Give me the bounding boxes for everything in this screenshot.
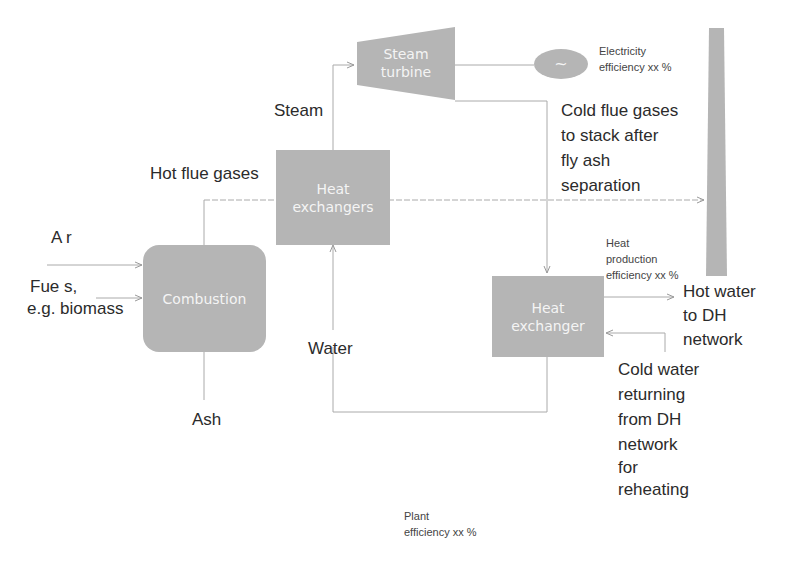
- fuels-label-2: e.g. biomass: [27, 298, 123, 320]
- generator-icon: ~: [534, 52, 588, 76]
- cold-water-line-5: for: [618, 457, 699, 479]
- heat-exchangers-label-1: Heat: [293, 180, 374, 198]
- hot-flue-gases-label: Hot flue gases: [150, 163, 259, 185]
- water-label: Water: [308, 338, 353, 360]
- combustion-label: Combustion: [163, 290, 247, 308]
- steam-turbine: Steam turbine: [357, 38, 455, 88]
- generator-symbol: ~: [554, 55, 567, 73]
- cold-flue-line-2: to stack after: [561, 123, 678, 148]
- cold-flue-gases-label: Cold flue gases to stack after fly ash s…: [561, 98, 678, 198]
- combustion-box: Combustion: [143, 245, 266, 352]
- fuels-label-1: Fue s,: [30, 276, 77, 298]
- heat-efficiency-line-2: production: [606, 251, 679, 267]
- hot-water-line-2: to DH: [683, 304, 756, 328]
- cold-water-line-1: Cold water: [618, 357, 699, 382]
- cold-flue-line-3: fly ash: [561, 148, 678, 173]
- plant-efficiency: Plant efficiency xx %: [404, 508, 477, 540]
- heat-exchanger-box: Heat exchanger: [492, 276, 604, 357]
- heat-exchangers-label-2: exchangers: [293, 198, 374, 216]
- hot-water-line-3: network: [683, 328, 756, 352]
- stack-shape: [706, 28, 727, 276]
- electricity-efficiency-line-1: Electricity: [599, 43, 672, 59]
- cold-flue-line-4: separation: [561, 173, 678, 198]
- hot-water-line-1: Hot water: [683, 280, 756, 304]
- cold-water-line-4: network: [618, 432, 699, 457]
- heat-production-efficiency: Heat production efficiency xx %: [606, 235, 679, 283]
- steam-turbine-label-1: Steam: [381, 45, 431, 63]
- ash-label: Ash: [192, 409, 221, 431]
- hot-water-label: Hot water to DH network: [683, 280, 756, 352]
- cold-water-line-6: reheating: [618, 479, 699, 501]
- heat-exchanger-label-2: exchanger: [511, 317, 585, 335]
- plant-efficiency-line-2: efficiency xx %: [404, 524, 477, 540]
- cold-water-line-3: from DH: [618, 407, 699, 432]
- electricity-efficiency-line-2: efficiency xx %: [599, 59, 672, 75]
- air-label: A r: [51, 227, 72, 249]
- cold-water-label: Cold water returning from DH network for…: [618, 357, 699, 501]
- steam-turbine-label-2: turbine: [381, 63, 431, 81]
- cold-flue-line-1: Cold flue gases: [561, 98, 678, 123]
- heat-exchanger-label-1: Heat: [511, 299, 585, 317]
- steam-label: Steam: [274, 100, 323, 122]
- heat-exchangers-box: Heat exchangers: [276, 150, 390, 245]
- heat-efficiency-line-3: efficiency xx %: [606, 267, 679, 283]
- plant-efficiency-line-1: Plant: [404, 508, 477, 524]
- heat-efficiency-line-1: Heat: [606, 235, 679, 251]
- cold-water-line-2: returning: [618, 382, 699, 407]
- electricity-efficiency: Electricity efficiency xx %: [599, 43, 672, 75]
